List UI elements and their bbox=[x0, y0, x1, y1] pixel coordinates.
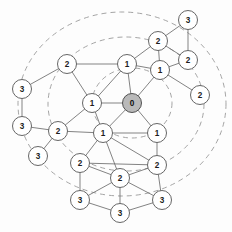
graph-node[interactable]: 1 bbox=[118, 55, 137, 74]
graph-edge bbox=[129, 168, 148, 175]
graph-node[interactable]: 1 bbox=[83, 94, 102, 113]
graph-edge bbox=[138, 77, 154, 96]
node-label: 1 bbox=[155, 129, 160, 138]
node-label: 2 bbox=[65, 60, 70, 69]
node-label: 1 bbox=[158, 66, 163, 75]
node-label: 3 bbox=[160, 196, 165, 205]
graph-node[interactable]: 3 bbox=[71, 191, 90, 210]
graph-node[interactable]: 2 bbox=[111, 169, 130, 188]
graph-edges-layer bbox=[22, 25, 192, 210]
graph-edge bbox=[90, 163, 148, 165]
graph-edge bbox=[168, 75, 192, 90]
graph-edge bbox=[98, 71, 120, 96]
graph-node[interactable]: 3 bbox=[179, 11, 198, 30]
graph-edge bbox=[86, 141, 97, 156]
graph-edge bbox=[158, 174, 160, 190]
node-label: 2 bbox=[155, 161, 160, 170]
graph-edge bbox=[166, 46, 180, 55]
graph-edge bbox=[88, 183, 111, 196]
graph-node[interactable]: 2 bbox=[58, 55, 77, 74]
node-label: 1 bbox=[90, 99, 95, 108]
graph-node[interactable]: 3 bbox=[153, 191, 172, 210]
graph-edge bbox=[89, 203, 111, 210]
node-label: 3 bbox=[20, 85, 25, 94]
node-label: 2 bbox=[156, 37, 161, 46]
node-label: 2 bbox=[56, 127, 61, 136]
graph-edge bbox=[89, 166, 111, 174]
graph-edge bbox=[72, 72, 87, 95]
graph-node[interactable]: 3 bbox=[13, 117, 32, 136]
graph-node[interactable]: 2 bbox=[179, 51, 198, 70]
graph-node-hub[interactable]: 0 bbox=[123, 94, 142, 113]
graph-node[interactable]: 1 bbox=[94, 124, 113, 143]
node-label: 2 bbox=[118, 174, 123, 183]
graph-edge bbox=[159, 50, 160, 60]
node-label: 1 bbox=[125, 60, 130, 69]
node-label: 3 bbox=[186, 16, 191, 25]
network-graph-canvas: 011111222222223333333 bbox=[0, 0, 232, 232]
node-label: 3 bbox=[78, 196, 83, 205]
graph-node[interactable]: 2 bbox=[149, 32, 168, 51]
node-label: 2 bbox=[78, 159, 83, 168]
graph-node[interactable]: 2 bbox=[49, 122, 68, 141]
graph-node[interactable]: 2 bbox=[148, 156, 167, 175]
node-label: 0 bbox=[130, 99, 135, 108]
node-label: 3 bbox=[36, 152, 41, 161]
graph-figure: 011111222222223333333 bbox=[0, 0, 232, 232]
graph-edge bbox=[136, 66, 150, 69]
node-label: 2 bbox=[186, 56, 191, 65]
graph-edge bbox=[110, 110, 126, 126]
graph-node[interactable]: 3 bbox=[13, 80, 32, 99]
graph-edge bbox=[128, 73, 131, 93]
graph-node[interactable]: 3 bbox=[111, 204, 130, 223]
graph-edge bbox=[111, 138, 149, 160]
graph-edge bbox=[129, 203, 153, 210]
graph-edge bbox=[44, 138, 52, 148]
graph-edge bbox=[31, 127, 48, 129]
graph-nodes-layer: 011111222222223333333 bbox=[13, 11, 210, 223]
graph-node[interactable]: 1 bbox=[151, 61, 170, 80]
graph-edge bbox=[128, 182, 153, 195]
node-label: 3 bbox=[118, 209, 123, 218]
graph-edge bbox=[106, 142, 116, 169]
node-label: 3 bbox=[20, 122, 25, 131]
graph-edge bbox=[135, 47, 151, 59]
graph-edge bbox=[67, 131, 93, 132]
graph-node[interactable]: 2 bbox=[71, 154, 90, 173]
graph-edge bbox=[166, 25, 180, 35]
graph-node[interactable]: 2 bbox=[191, 86, 210, 105]
node-label: 1 bbox=[101, 129, 106, 138]
graph-edge bbox=[65, 109, 84, 125]
graph-node[interactable]: 1 bbox=[148, 124, 167, 143]
node-label: 2 bbox=[198, 91, 203, 100]
graph-edge bbox=[169, 63, 179, 67]
graph-edge bbox=[138, 110, 151, 125]
graph-node[interactable]: 3 bbox=[29, 147, 48, 166]
